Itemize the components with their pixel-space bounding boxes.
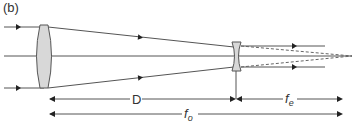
ray-arrow-icon xyxy=(16,24,21,30)
arrow-left-icon xyxy=(236,96,242,102)
dimension-fe: fe xyxy=(236,91,343,108)
label-D: D xyxy=(132,92,141,107)
converging-ray-bottom xyxy=(48,67,234,88)
ray-arrow-icon xyxy=(292,64,297,70)
virtual-ray-bottom xyxy=(241,56,352,67)
outgoing-ray-top xyxy=(241,43,325,49)
panel-label: (b) xyxy=(3,0,19,15)
objective-lens xyxy=(37,25,52,88)
virtual-ray-top xyxy=(241,46,352,56)
label-fo: fo xyxy=(184,106,193,123)
converging-ray-top xyxy=(48,27,234,47)
ray-arrow-icon xyxy=(292,43,297,49)
telescope-diagram: (b) D xyxy=(0,0,358,128)
label-fe: fe xyxy=(285,91,294,108)
dimension-fo: fo xyxy=(49,106,343,123)
incoming-ray-top xyxy=(4,24,44,30)
incoming-ray-bottom xyxy=(4,85,44,91)
arrow-right-icon xyxy=(337,96,343,102)
arrow-right-icon xyxy=(230,96,236,102)
outgoing-ray-bottom xyxy=(241,64,325,70)
arrow-left-icon xyxy=(49,111,55,117)
arrow-right-icon xyxy=(337,111,343,117)
dimension-D: D xyxy=(49,92,236,107)
ray-arrow-icon xyxy=(16,85,21,91)
arrow-left-icon xyxy=(49,96,55,102)
